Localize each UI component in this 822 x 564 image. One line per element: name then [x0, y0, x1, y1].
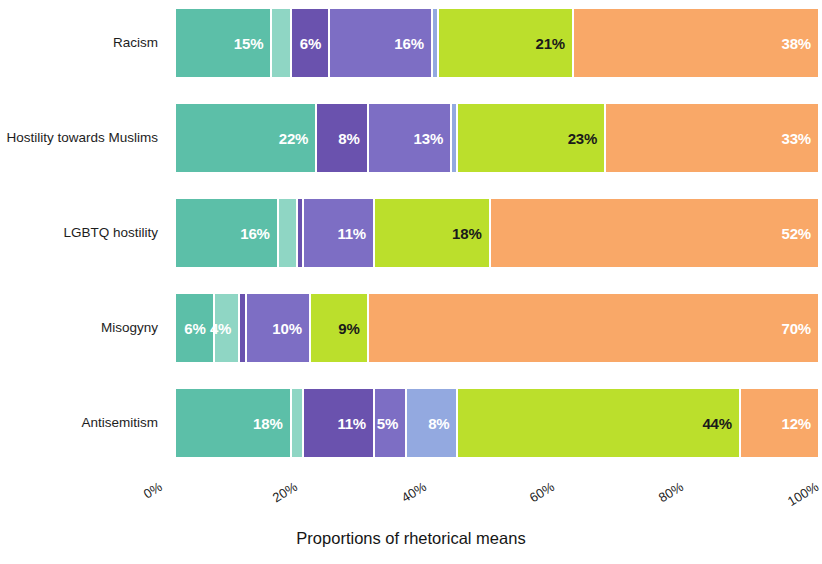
bar-row-racism: 15%6%16%21%38%: [176, 9, 818, 77]
bar-segment-label: 44%: [702, 415, 738, 432]
bar-row-misogyny: 6%4%10%9%70%: [176, 294, 818, 362]
bar-segment: 12%: [741, 389, 818, 457]
y-axis-labels: Racism Hostility towards Muslims LGBTQ h…: [0, 0, 168, 470]
bar-segment: [292, 389, 305, 457]
bar-segment: 10%: [247, 294, 311, 362]
bar-segment: 52%: [491, 199, 818, 267]
x-axis-tick-label: 0%: [141, 479, 165, 502]
bar-row-antisemitism: 18%11%5%8%44%12%: [176, 389, 818, 457]
bar-segment: 23%: [458, 104, 606, 172]
bar-segment: [279, 199, 298, 267]
stacked-bar: 15%6%16%21%38%: [176, 9, 818, 77]
x-axis-tick-label: 100%: [785, 479, 821, 509]
bar-segment-label: 6%: [184, 320, 212, 337]
bar-segment-label: 70%: [782, 320, 818, 337]
stacked-bar: 18%11%5%8%44%12%: [176, 389, 818, 457]
bar-segment: 21%: [439, 9, 574, 77]
y-axis-label-racism: Racism: [0, 35, 158, 50]
bar-segment: 5%: [375, 389, 407, 457]
bar-segment-label: 18%: [452, 225, 488, 242]
bar-segment: 8%: [407, 389, 458, 457]
bar-segment-label: 52%: [782, 225, 818, 242]
bar-segment: 13%: [369, 104, 452, 172]
bar-segment: 22%: [176, 104, 317, 172]
bar-segment: 15%: [176, 9, 272, 77]
bar-segment-label: 12%: [782, 415, 818, 432]
bar-segment: 6%: [292, 9, 331, 77]
bar-segment: 6%: [176, 294, 215, 362]
bar-segment-label: 33%: [782, 130, 818, 147]
stacked-bar: 16%11%18%52%: [176, 199, 818, 267]
bar-segment-label: 11%: [337, 415, 373, 432]
x-axis-tick-label: 20%: [270, 479, 300, 505]
bar-segment: 38%: [574, 9, 818, 77]
stacked-bar-chart: Racism Hostility towards Muslims LGBTQ h…: [0, 0, 822, 564]
bar-segment: 44%: [458, 389, 740, 457]
bar-segment: 4%: [215, 294, 241, 362]
y-axis-label-hostility-towards-muslims: Hostility towards Muslims: [0, 130, 158, 145]
bar-segment-label: 8%: [338, 130, 366, 147]
bar-row-lgbtq-hostility: 16%11%18%52%: [176, 199, 818, 267]
bar-segment: 33%: [606, 104, 818, 172]
bar-segment: [272, 9, 291, 77]
x-axis-tick-label: 40%: [399, 479, 429, 505]
bar-segment: 9%: [311, 294, 369, 362]
bar-segment: 16%: [330, 9, 433, 77]
bar-segment: 11%: [304, 389, 375, 457]
bar-segment: 70%: [369, 294, 818, 362]
bar-segment-label: 23%: [568, 130, 604, 147]
bar-segment-label: 38%: [782, 35, 818, 52]
bar-segment-label: 18%: [253, 415, 289, 432]
bar-segment-label: 8%: [428, 415, 456, 432]
y-axis-label-lgbtq-hostility: LGBTQ hostility: [0, 225, 158, 240]
bar-segment-label: 15%: [234, 35, 270, 52]
bar-segment-label: 16%: [240, 225, 276, 242]
x-axis-ticks: 0%20%40%60%80%100%: [176, 470, 818, 525]
bar-segment-label: 22%: [279, 130, 315, 147]
bar-segment: 11%: [304, 199, 375, 267]
x-axis-title: Proportions of rhetorical means: [0, 529, 822, 548]
bar-segment: 18%: [375, 199, 491, 267]
bar-row-hostility-towards-muslims: 22%8%13%23%33%: [176, 104, 818, 172]
x-axis-tick-label: 60%: [527, 479, 557, 505]
bar-segment-label: 4%: [210, 320, 238, 337]
x-axis-tick-label: 80%: [655, 479, 685, 505]
y-axis-label-misogyny: Misogyny: [0, 320, 158, 335]
bar-segment: 8%: [317, 104, 368, 172]
plot-area: 15%6%16%21%38% 22%8%13%23%33% 16%11%18%5…: [176, 0, 818, 470]
stacked-bar: 6%4%10%9%70%: [176, 294, 818, 362]
bar-segment-label: 16%: [394, 35, 430, 52]
stacked-bar: 22%8%13%23%33%: [176, 104, 818, 172]
bar-segment-label: 10%: [272, 320, 308, 337]
bar-segment-label: 21%: [536, 35, 572, 52]
bar-segment-label: 11%: [337, 225, 373, 242]
bar-segment-label: 13%: [414, 130, 450, 147]
y-axis-label-antisemitism: Antisemitism: [0, 415, 158, 430]
bar-segment-label: 5%: [377, 415, 405, 432]
bar-segment: 18%: [176, 389, 292, 457]
bar-segment-label: 9%: [338, 320, 366, 337]
bar-segment-label: 6%: [300, 35, 328, 52]
bar-segment: 16%: [176, 199, 279, 267]
